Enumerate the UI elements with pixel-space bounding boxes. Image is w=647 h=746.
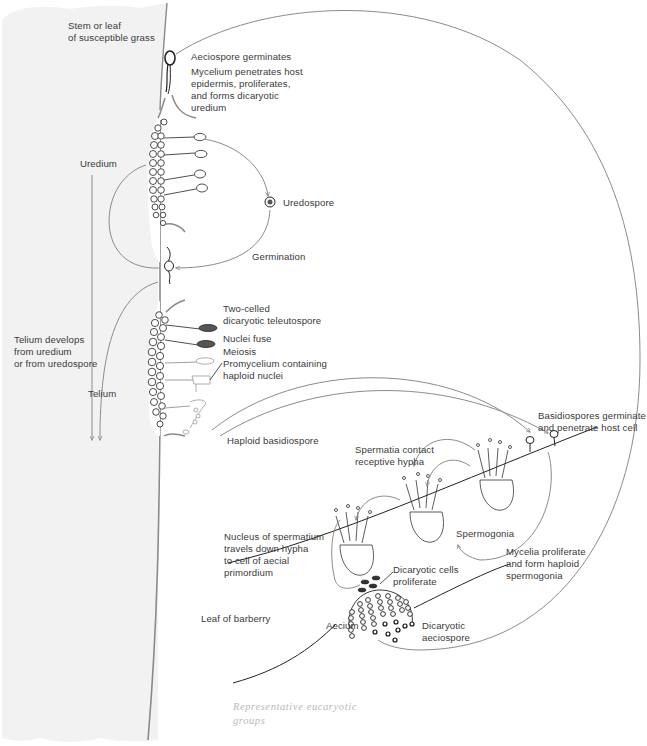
label-nuclei-fuse: Nuclei fuse — [223, 333, 272, 345]
label-dicaryotic-cells: Dicaryotic cells proliferate — [393, 564, 459, 588]
spermogonium-icon — [477, 439, 514, 511]
label-aeciospore-germinates: Aeciospore germinates — [191, 51, 291, 63]
label-leaf-barberry: Leaf of barberry — [201, 613, 270, 625]
label-germination: Germination — [252, 251, 305, 263]
dicaryotic-cells-icon — [358, 576, 380, 592]
grass-stem-tissue — [2, 3, 167, 742]
figure-caption: Representative eucaryotic groups — [233, 700, 357, 728]
label-spermogonia: Spermogonia — [456, 528, 514, 540]
label-telium-develops: Telium develops from uredium or from ure… — [14, 334, 97, 370]
label-mycelium-penetrates: Mycelium penetrates host epidermis, prol… — [191, 66, 303, 114]
label-two-celled-teleutospore: Two-celled dicaryotic teleutospore — [223, 303, 321, 327]
promycelium-pointer — [210, 363, 222, 380]
telium-hypha-top — [166, 300, 185, 312]
label-dicaryotic-aeciospore: Dicaryotic aeciospore — [422, 620, 470, 644]
label-nucleus-travels: Nucleus of spermatium travels down hypha… — [224, 531, 324, 579]
label-aecium: Aecium — [326, 620, 359, 632]
label-spermatia-contact: Spermatia contact receptive hypha — [355, 444, 434, 468]
label-uredospore: Uredospore — [283, 197, 334, 209]
spermogonium-icon — [335, 505, 374, 576]
label-basidiospores-germinate: Basidiospores germinate and penetrate ho… — [538, 410, 646, 434]
label-uredium: Uredium — [80, 158, 117, 170]
germinating-uredospore-icon — [165, 247, 174, 284]
label-mycelia-proliferate: Mycelia proliferate and form haploid spe… — [506, 546, 586, 582]
dicaryotic-cells-pointer — [380, 572, 393, 584]
label-haploid-basidiospore: Haploid basidiospore — [227, 435, 319, 447]
label-host-grass: Stem or leaf of susceptible grass — [68, 20, 155, 44]
uredospore-icon — [265, 197, 275, 207]
telium-hypha-bottom — [164, 434, 185, 436]
uredium-hyphal-edge — [164, 224, 185, 232]
label-promycelium: Promycelium containing haploid nuclei — [223, 358, 327, 382]
arrow-uredium-to-uredospore — [204, 139, 268, 196]
aecium-structure-icon — [349, 590, 414, 642]
label-meiosis: Meiosis — [223, 346, 256, 358]
label-telium: Telium — [88, 388, 116, 400]
spermogonium-icon — [403, 473, 444, 543]
